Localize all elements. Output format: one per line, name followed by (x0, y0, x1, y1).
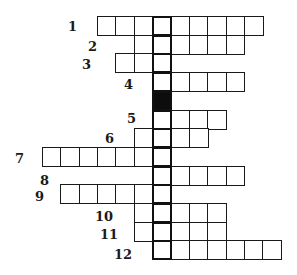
answer-cell[interactable] (226, 72, 246, 92)
keyword-cell[interactable] (152, 128, 172, 148)
clue-number-7: 7 (15, 152, 24, 165)
answer-cell[interactable] (170, 35, 190, 55)
answer-cell[interactable] (189, 72, 209, 92)
answer-cell[interactable] (226, 240, 246, 260)
clue-number-11: 11 (100, 228, 118, 241)
answer-cell[interactable] (207, 166, 227, 186)
answer-cell[interactable] (134, 16, 154, 36)
answer-cell[interactable] (207, 203, 227, 223)
answer-cell[interactable] (115, 147, 135, 167)
clue-number-5: 5 (127, 112, 136, 125)
answer-cell[interactable] (189, 128, 209, 148)
keyword-cell[interactable] (152, 53, 172, 73)
answer-cell[interactable] (170, 110, 190, 130)
answer-cell[interactable] (134, 222, 154, 242)
keyword-cell[interactable] (152, 16, 172, 36)
keyword-cell[interactable] (152, 184, 172, 204)
clue-number-6: 6 (105, 132, 114, 145)
answer-cell[interactable] (189, 166, 209, 186)
answer-cell[interactable] (189, 240, 209, 260)
answer-cell[interactable] (226, 16, 246, 36)
answer-cell[interactable] (134, 147, 154, 167)
clue-number-2: 2 (88, 40, 97, 53)
clue-number-8: 8 (40, 174, 49, 187)
answer-cell[interactable] (189, 110, 209, 130)
answer-cell[interactable] (244, 240, 264, 260)
answer-cell[interactable] (134, 184, 154, 204)
answer-cell[interactable] (244, 16, 264, 36)
clue-number-4: 4 (124, 78, 133, 91)
answer-cell[interactable] (115, 53, 135, 73)
clue-number-10: 10 (95, 210, 113, 223)
answer-cell[interactable] (170, 128, 190, 148)
clue-number-3: 3 (82, 58, 91, 71)
answer-cell[interactable] (226, 166, 246, 186)
answer-cell[interactable] (189, 203, 209, 223)
answer-cell[interactable] (170, 240, 190, 260)
answer-cell[interactable] (207, 16, 227, 36)
keyword-cell[interactable] (152, 240, 172, 260)
answer-cell[interactable] (170, 222, 190, 242)
answer-cell[interactable] (170, 166, 190, 186)
keyword-cell[interactable] (152, 110, 172, 130)
answer-cell[interactable] (226, 35, 246, 55)
answer-cell[interactable] (79, 147, 99, 167)
answer-cell[interactable] (60, 147, 80, 167)
answer-cell[interactable] (134, 35, 154, 55)
clue-number-9: 9 (35, 190, 44, 203)
keyword-cell[interactable] (152, 203, 172, 223)
answer-cell[interactable] (189, 222, 209, 242)
answer-cell[interactable] (60, 184, 80, 204)
keyword-cell[interactable] (152, 147, 172, 167)
answer-cell[interactable] (42, 147, 62, 167)
answer-cell[interactable] (134, 53, 154, 73)
answer-cell[interactable] (207, 240, 227, 260)
answer-cell[interactable] (207, 72, 227, 92)
answer-cell[interactable] (134, 203, 154, 223)
keyword-cell[interactable] (152, 72, 172, 92)
answer-cell[interactable] (115, 16, 135, 36)
answer-cell[interactable] (97, 16, 117, 36)
answer-cell[interactable] (189, 16, 209, 36)
answer-cell[interactable] (207, 222, 227, 242)
answer-cell[interactable] (170, 16, 190, 36)
answer-cell[interactable] (262, 240, 282, 260)
crossword-puzzle: 123456789101112 (0, 0, 297, 275)
keyword-cell[interactable] (152, 222, 172, 242)
answer-cell[interactable] (207, 35, 227, 55)
answer-cell[interactable] (170, 203, 190, 223)
black-cell (152, 91, 172, 111)
answer-cell[interactable] (207, 110, 227, 130)
answer-cell[interactable] (170, 72, 190, 92)
answer-cell[interactable] (79, 184, 99, 204)
clue-number-12: 12 (114, 248, 132, 261)
answer-cell[interactable] (134, 128, 154, 148)
answer-cell[interactable] (189, 35, 209, 55)
answer-cell[interactable] (115, 184, 135, 204)
answer-cell[interactable] (97, 184, 117, 204)
keyword-cell[interactable] (152, 35, 172, 55)
keyword-cell[interactable] (152, 166, 172, 186)
answer-cell[interactable] (97, 147, 117, 167)
clue-number-1: 1 (68, 20, 77, 33)
